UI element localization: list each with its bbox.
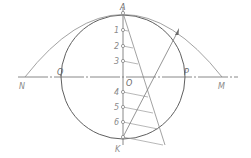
arrow-head-icon: [175, 28, 179, 35]
label-3: 3: [114, 57, 119, 66]
label-O: O: [126, 79, 132, 88]
label-P: P: [184, 68, 189, 77]
construction-diagram: A 1 2 3 O 4 5 6 K Q P N M: [0, 0, 251, 158]
label-4: 4: [114, 88, 119, 97]
diagram-canvas: A 1 2 3 O 4 5 6 K Q P N M: [0, 0, 251, 158]
label-2: 2: [114, 42, 119, 51]
label-A: A: [119, 3, 125, 12]
label-6: 6: [114, 118, 119, 127]
label-Q: Q: [57, 68, 63, 77]
label-N: N: [19, 82, 25, 91]
label-5: 5: [114, 103, 119, 112]
label-K: K: [115, 145, 121, 154]
label-1: 1: [114, 26, 119, 35]
label-M: M: [218, 82, 225, 91]
